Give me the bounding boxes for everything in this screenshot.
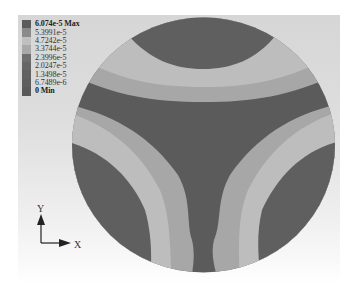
y-axis-arrowhead-icon xyxy=(37,214,45,225)
contour-plot[interactable]: Y X xyxy=(0,0,354,289)
y-axis-label: Y xyxy=(37,203,44,214)
contour-lobe-top xyxy=(62,0,345,102)
x-axis-arrowhead-icon xyxy=(59,239,71,247)
axis-triad: Y X xyxy=(37,203,82,250)
contour-disk xyxy=(60,0,350,289)
x-axis-label: X xyxy=(74,239,82,250)
